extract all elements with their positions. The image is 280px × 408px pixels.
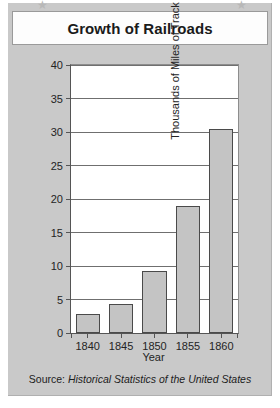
y-axis-tick-label: 35 bbox=[51, 93, 63, 105]
x-axis-tick bbox=[221, 333, 222, 338]
bar-1855 bbox=[176, 206, 200, 333]
x-axis-tick bbox=[154, 333, 155, 338]
source-prefix: Source: bbox=[29, 373, 65, 385]
page-title: Growth of Railroads bbox=[67, 20, 212, 37]
x-axis-tick bbox=[87, 333, 88, 338]
y-axis-tick-label: 15 bbox=[51, 227, 63, 239]
y-axis-tick bbox=[66, 98, 71, 99]
bar-1850 bbox=[142, 271, 166, 333]
y-axis-tick-label: 30 bbox=[51, 126, 63, 138]
y-axis-tick bbox=[66, 199, 71, 200]
y-axis-tick-label: 0 bbox=[57, 327, 63, 339]
bar-1845 bbox=[109, 304, 133, 333]
x-axis-title: Year bbox=[70, 351, 237, 363]
bar-1840 bbox=[76, 314, 100, 333]
gridline bbox=[71, 98, 238, 99]
source-publication-title: Historical Statistics of the United Stat… bbox=[68, 373, 251, 385]
y-axis-tick-label: 25 bbox=[51, 160, 63, 172]
y-axis-tick-label: 10 bbox=[51, 260, 63, 272]
x-axis-tick-end bbox=[237, 333, 238, 338]
x-axis-tick-start bbox=[71, 333, 72, 338]
y-axis-tick-label: 20 bbox=[51, 193, 63, 205]
y-axis-tick bbox=[66, 266, 71, 267]
x-axis-tick bbox=[187, 333, 188, 338]
title-plate: Growth of Railroads bbox=[12, 11, 268, 45]
source-caption: Source: Historical Statistics of the Uni… bbox=[8, 373, 272, 385]
y-axis-tick-label: 5 bbox=[57, 294, 63, 306]
y-axis-title: Thousands of Miles of Track bbox=[169, 0, 183, 205]
y-axis-tick bbox=[66, 65, 71, 66]
plot-area: 051015202530354018401845185018551860 bbox=[70, 64, 239, 334]
gridline bbox=[71, 65, 238, 66]
star-decoration-right: ★ bbox=[236, 0, 247, 11]
x-axis-tick bbox=[121, 333, 122, 338]
star-decoration-left: ★ bbox=[37, 0, 48, 11]
y-axis-tick bbox=[66, 232, 71, 233]
bar-chart-figure: 051015202530354018401845185018551860 Yea… bbox=[8, 48, 272, 368]
y-axis-tick bbox=[66, 299, 71, 300]
y-axis-tick-label: 40 bbox=[51, 59, 63, 71]
bar-1860 bbox=[209, 129, 233, 333]
y-axis-tick bbox=[66, 165, 71, 166]
y-axis-tick bbox=[66, 132, 71, 133]
